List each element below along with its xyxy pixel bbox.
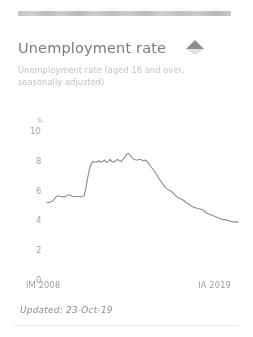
unemployment-rate-card: Unemployment rate Unemployment rate (age…: [0, 0, 253, 337]
triangle-up-icon: [184, 38, 206, 58]
y-axis-unit-label: %: [37, 117, 43, 125]
y-axis-tick-6: 6: [36, 186, 41, 196]
y-axis-tick-2: 2: [36, 245, 41, 255]
y-axis-tick-labels: 0246810: [30, 126, 41, 285]
card-divider: [14, 325, 239, 326]
header-bar: [18, 11, 231, 16]
card-header: Unemployment rate: [18, 36, 228, 60]
page-title: Unemployment rate: [18, 40, 166, 56]
x-axis-label-end: IA 2019: [198, 280, 231, 290]
updated-timestamp: Updated: 23-Oct-19: [20, 305, 113, 315]
y-axis-tick-8: 8: [36, 156, 41, 166]
chart-svg: % 0246810: [0, 112, 253, 294]
x-axis-label-start: IM 2008: [26, 280, 60, 290]
card-subtitle: Unemployment rate (aged 16 and over, sea…: [18, 65, 208, 88]
unemployment-line-chart: % 0246810 IM 2008 IA 2019: [0, 112, 253, 294]
y-axis-tick-4: 4: [36, 215, 41, 225]
y-axis-tick-10: 10: [30, 126, 41, 136]
series-line-unemployment-rate: [47, 153, 238, 222]
